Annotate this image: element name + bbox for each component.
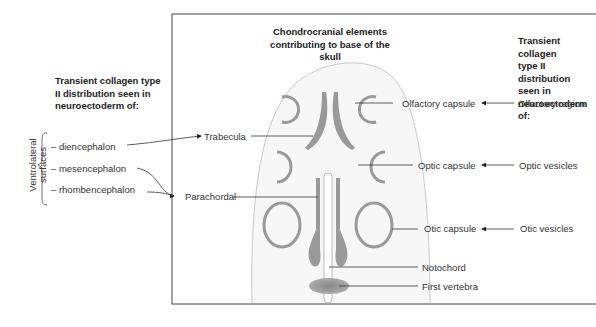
label-otic-vesicles: Otic vesicles [520,223,573,234]
left-heading-line: neuroectoderm of: [55,100,161,113]
label-olfactory-capsule: Olfactory capsule [402,98,475,109]
left-item-rhombencephalon: – rhombencephalon [51,184,135,195]
right-heading-line: seen in [518,85,596,98]
bracket-label: Ventrolateral surfaces [28,135,48,195]
center-title: Chondrocranial elements contributing to … [260,26,400,64]
label-notochord: Notochord [422,262,466,273]
label-trabecula: Trabecula [204,131,246,142]
label-olfactory-region: Olfactory region [518,98,585,109]
center-title-line: Chondrocranial elements [260,26,400,39]
label-otic-capsule: Otic capsule [424,223,476,234]
right-heading-line: Transient collagen [518,35,596,60]
rhombencephalon-arrow [147,192,174,196]
right-heading: Transient collagen type II distribution … [518,35,596,123]
bracket-label-line: surfaces [38,135,48,195]
left-heading-line: II distribution seen in [55,88,161,101]
right-heading-line: type II distribution [518,60,596,85]
left-item-mesencephalon: – mesencephalon [51,163,126,174]
left-heading-line: Transient collagen type [55,75,161,88]
left-heading: Transient collagen type II distribution … [55,75,161,113]
label-parachordal: Parachordal [185,191,236,202]
label-first-vertebra: First vertebra [422,281,478,292]
label-optic-vesicles: Optic vesicles [519,160,578,171]
diencephalon-arrow [127,136,201,145]
left-item-diencephalon: – diencephalon [51,141,115,152]
mesencephalon-arrow [137,168,174,196]
label-optic-capsule: Optic capsule [418,160,476,171]
center-title-line: contributing to base of the skull [260,39,400,64]
